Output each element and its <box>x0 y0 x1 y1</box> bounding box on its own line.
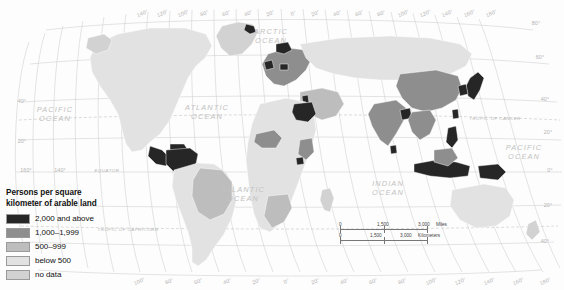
latitude-labels-right: 80°60°40°20°0°20°40° <box>532 20 553 244</box>
legend-item[interactable]: no data <box>6 268 97 281</box>
longitude-label: 0° <box>290 9 297 17</box>
ocean-label-line: OCEAN <box>372 188 404 197</box>
legend-title: Persons per square kilometer of arable l… <box>6 188 97 209</box>
longitude-label: 20° <box>265 9 275 18</box>
latitude-label: 20° <box>544 129 552 135</box>
longitude-label: 40° <box>339 277 349 286</box>
longitude-label: 160° <box>512 276 525 286</box>
longitude-labels-bottom: 100°80°60°40°20°0°20°40°60°80°100°120°14… <box>133 276 552 286</box>
scale-tick <box>384 237 385 244</box>
longitude-label: 180° <box>485 8 498 18</box>
scale-label-mid: 1,500 <box>377 222 389 227</box>
map-legend: Persons per square kilometer of arable l… <box>6 188 97 282</box>
scale-label-zero: 0 <box>339 233 342 238</box>
landmass-papua-new-guinea <box>478 164 506 180</box>
scale-label-zero: 0 <box>339 222 342 227</box>
legend-swatch <box>6 256 30 266</box>
longitude-label: 100° <box>177 8 190 18</box>
legend-item[interactable]: 2,000 and above <box>6 212 97 225</box>
scale-bar-kilometers: 0 1,500 3,000 Kilometers <box>340 235 452 246</box>
scale-tick <box>384 226 385 233</box>
latitude-label: 60° <box>536 54 544 60</box>
longitude-label: 20° <box>251 277 261 286</box>
latitude-label: 20° <box>18 138 26 144</box>
landmass-new-zealand <box>526 220 540 240</box>
longitude-label: 0° <box>283 277 290 285</box>
legend-label: 1,000–1,999 <box>35 228 79 237</box>
world-map-figure: 140°120°100°80°60°40°20°0°20°40°60°80°10… <box>0 0 564 290</box>
legend-label: no data <box>35 270 61 279</box>
longitude-label: 60° <box>221 9 231 18</box>
longitude-label: 80° <box>199 9 209 18</box>
landmass-benelux <box>280 64 288 70</box>
ocean-label-line: ATLANTIC <box>220 185 265 194</box>
longitude-label: 160° <box>463 8 476 18</box>
longitude-label: 100° <box>397 8 410 18</box>
scale-label-mid: 1,500 <box>370 233 382 238</box>
legend-item[interactable]: below 500 <box>6 254 97 267</box>
legend-label: 500–999 <box>35 242 66 251</box>
longitude-label: 140° <box>441 8 454 18</box>
ocean-label-line: PACIFIC <box>506 143 542 152</box>
reference-line-label: EQUATOR <box>95 168 120 173</box>
legend-label: 2,000 and above <box>35 214 94 223</box>
ocean-label-line: PACIFIC <box>37 105 73 114</box>
landmass-rwanda-burundi <box>296 157 304 165</box>
legend-item[interactable]: 500–999 <box>6 240 97 253</box>
landmass-korea <box>458 84 468 96</box>
landmass-southeast-asia <box>408 110 436 140</box>
legend-swatch <box>6 228 30 238</box>
longitude-label: 40° <box>222 277 232 286</box>
longitude-label: 140° <box>136 8 149 18</box>
ocean-label-line: OCEAN <box>191 112 223 121</box>
ocean-label-line: OCEAN <box>39 114 71 123</box>
scale-label-end: 3,000 <box>400 233 412 238</box>
longitude-label: 60° <box>368 277 378 286</box>
longitude-label: 60° <box>354 9 364 18</box>
landmass-india <box>368 100 406 146</box>
longitude-label: 80° <box>397 277 407 286</box>
landmass-uk <box>264 60 274 70</box>
landmass-japan <box>466 72 484 100</box>
scale-unit-kilometers: Kilometers <box>418 233 440 238</box>
longitude-label: 120° <box>156 8 169 18</box>
longitude-label: 20° <box>310 277 320 286</box>
ocean-label-line: ARCTIC <box>253 27 288 36</box>
latitude-label: 140° <box>54 167 66 173</box>
reference-line-label: TROPIC OF CANCER <box>469 116 521 121</box>
longitude-label: 60° <box>193 277 203 286</box>
latitude-label: 40° <box>541 238 549 244</box>
scale-tick <box>427 237 428 244</box>
ocean-label-line: OCEAN <box>255 36 287 45</box>
legend-item[interactable]: 1,000–1,999 <box>6 226 97 239</box>
longitude-label: 80° <box>164 277 174 286</box>
scale-tick <box>340 237 341 244</box>
legend-swatch <box>6 242 30 252</box>
longitude-label: 100° <box>425 276 438 286</box>
latitude-label: 80° <box>532 20 540 26</box>
longitude-labels-top: 140°120°100°80°60°40°20°0°20°40°60°80°10… <box>136 8 498 18</box>
landmass-philippines <box>446 126 458 148</box>
landmass-china <box>396 70 462 112</box>
longitude-label: 100° <box>133 276 146 286</box>
longitude-label: 120° <box>454 276 467 286</box>
map-scale-bar: 0 1,500 3,000 Miles 0 1,500 3,000 Kilome… <box>340 224 452 246</box>
legend-swatch <box>6 214 30 224</box>
ocean-label-line: ATLANTIC <box>184 103 229 112</box>
legend-rows: 2,000 and above 1,000–1,999 500–999 belo… <box>6 212 97 281</box>
scale-unit-miles: Miles <box>436 222 447 227</box>
longitude-label: 80° <box>376 9 386 18</box>
landmass-srilanka <box>390 145 397 154</box>
longitude-label: 120° <box>419 8 432 18</box>
legend-swatch <box>6 270 30 280</box>
longitude-label: 180° <box>539 276 552 286</box>
ocean-label-line: OCEAN <box>227 194 259 203</box>
latitude-label: 0° <box>547 167 552 173</box>
longitude-label: 40° <box>332 9 342 18</box>
scale-label-end: 3,000 <box>418 222 430 227</box>
legend-label: below 500 <box>35 256 71 265</box>
ocean-label-line: INDIAN <box>372 179 404 188</box>
landmass-australia <box>450 184 514 228</box>
latitude-label: 160° <box>20 167 32 173</box>
longitude-label: 20° <box>310 9 320 18</box>
